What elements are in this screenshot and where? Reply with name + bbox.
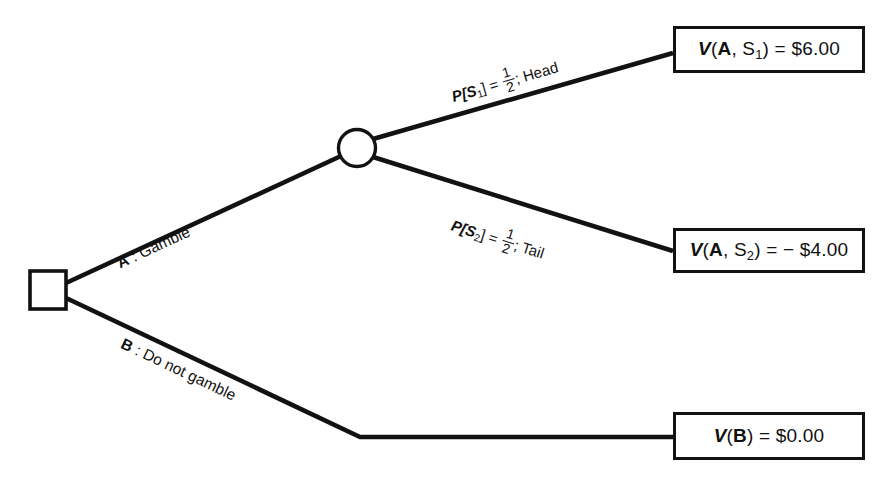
outcome-box-a-s2: V(A, S2) = − $4.00 — [673, 228, 865, 273]
prob-s1-prefix: P[S — [450, 82, 479, 105]
prob-s2-denominator: 2 — [498, 241, 513, 258]
outcome-a-s1-fn: V — [698, 38, 711, 59]
outcome-box-b: V(B) = $0.00 — [673, 412, 865, 460]
outcome-a-s2-arg1: A — [709, 239, 723, 260]
outcome-a-s1-value: $6.00 — [791, 38, 840, 59]
outcome-a-s1-equals: = — [769, 38, 791, 59]
prob-s1-outcome-name: Head — [521, 58, 560, 84]
outcome-a-s2-value: − $4.00 — [783, 239, 848, 260]
outcome-a-s2-fn: V — [690, 239, 703, 260]
outcome-a-s2-text: V(A, S2) = − $4.00 — [690, 239, 849, 263]
outcome-a-s1-arg2-sub: 1 — [755, 46, 762, 61]
decision-node-square — [30, 271, 66, 309]
outcome-b-arg1: B — [733, 425, 747, 446]
outcome-b-fn: V — [714, 425, 727, 446]
outcome-b-text: V(B) = $0.00 — [714, 425, 825, 447]
outcome-a-s1-text: V(A, S1) = $6.00 — [698, 38, 840, 62]
outcome-a-s2-argsep: , — [723, 239, 734, 260]
outcome-a-s1-arg1: A — [717, 38, 731, 59]
outcome-box-a-s1: V(A, S1) = $6.00 — [673, 26, 865, 73]
outcome-a-s2-arg2: S — [734, 239, 747, 260]
prob-s1-suffix: ] = — [479, 74, 504, 96]
outcome-b-value: $0.00 — [776, 425, 825, 446]
chance-node-circle — [339, 130, 376, 167]
outcome-a-s1-argsep: , — [731, 38, 742, 59]
branch-a-line — [66, 156, 341, 283]
decision-tree-diagram: A : Gamble B : Do not gamble P[S1] = 12;… — [0, 0, 890, 485]
outcome-a-s2-equals: = — [761, 239, 783, 260]
outcome-b-equals: = — [754, 425, 776, 446]
outcome-a-s1-arg2: S — [742, 38, 755, 59]
